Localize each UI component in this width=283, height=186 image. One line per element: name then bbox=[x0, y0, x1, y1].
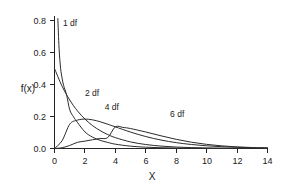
series-label-1-df: 1 df bbox=[63, 18, 78, 28]
series-annotations: 1 df 2 df 4 df 6 df bbox=[63, 18, 185, 118]
chart-figure: 0.8 0.6 0.4 0.2 0.0 0 2 4 6 8 10 12 14 bbox=[0, 0, 283, 186]
chi-square-distribution-plot: 0.8 0.6 0.4 0.2 0.0 0 2 4 6 8 10 12 14 bbox=[0, 0, 283, 186]
x-tick-label: 14 bbox=[262, 156, 272, 166]
series-label-4-df: 4 df bbox=[105, 102, 120, 112]
y-tick-label: 0.4 bbox=[33, 80, 46, 90]
x-tick-label: 12 bbox=[232, 156, 242, 166]
x-tick-label: 0 bbox=[52, 156, 57, 166]
series-label-6-df: 6 df bbox=[170, 109, 185, 119]
y-axis-title: f(x) bbox=[21, 83, 35, 94]
y-tick-label: 0.0 bbox=[33, 144, 46, 154]
x-tick-label: 6 bbox=[143, 156, 148, 166]
y-axis-tick-labels: 0.8 0.6 0.4 0.2 0.0 bbox=[33, 16, 46, 154]
series-label-2-df: 2 df bbox=[85, 88, 100, 98]
x-tick-label: 2 bbox=[82, 156, 87, 166]
x-tick-label: 8 bbox=[174, 156, 179, 166]
x-axis-tick-labels: 0 2 4 6 8 10 12 14 bbox=[52, 156, 273, 166]
x-tick-label: 4 bbox=[113, 156, 118, 166]
x-tick-label: 10 bbox=[202, 156, 212, 166]
curve-6-df bbox=[55, 126, 268, 148]
y-tick-label: 0.6 bbox=[33, 48, 46, 58]
curve-2-df bbox=[55, 69, 268, 149]
y-tick-label: 0.8 bbox=[33, 16, 46, 26]
y-tick-label: 0.2 bbox=[33, 112, 46, 122]
curve-1-df bbox=[58, 19, 268, 149]
x-axis-ticks bbox=[55, 149, 268, 154]
y-axis-ticks bbox=[50, 21, 55, 149]
x-axis-title: X bbox=[149, 171, 156, 182]
